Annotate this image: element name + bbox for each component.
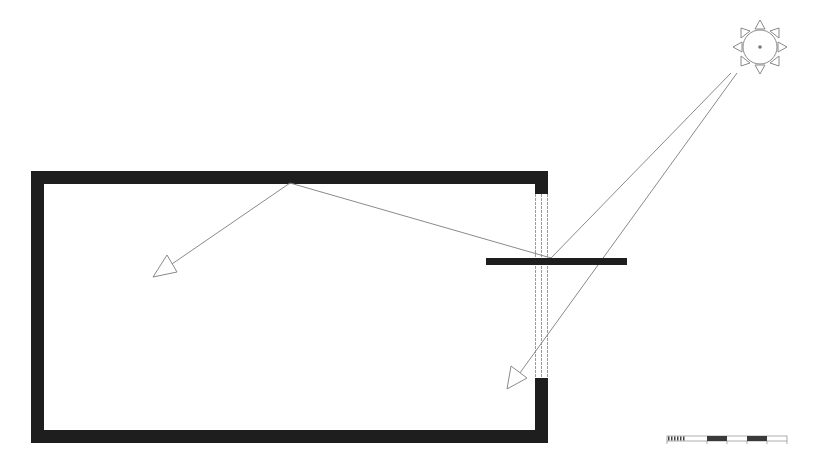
light-shelf-diagram bbox=[0, 0, 814, 466]
reflected-ray-into-room bbox=[153, 183, 290, 277]
direct-ray-to-floor bbox=[509, 73, 737, 388]
right-wall-upper bbox=[535, 171, 548, 194]
light-rays bbox=[153, 73, 737, 389]
arrowhead-icon bbox=[153, 255, 177, 277]
right-wall-lower bbox=[535, 378, 548, 443]
top-wall bbox=[31, 171, 548, 184]
sun-center-dot bbox=[758, 45, 762, 49]
bottom-wall bbox=[31, 430, 548, 443]
direct-ray-to-shelf bbox=[551, 73, 731, 258]
left-wall bbox=[31, 171, 44, 443]
sun-icon bbox=[733, 20, 787, 74]
reflected-ray-to-ceiling bbox=[290, 183, 551, 258]
scale-bar bbox=[667, 436, 787, 444]
light-shelf bbox=[486, 258, 627, 265]
window-glazing bbox=[536, 194, 548, 378]
room-walls bbox=[31, 171, 548, 443]
arrowhead-icon bbox=[507, 366, 527, 389]
